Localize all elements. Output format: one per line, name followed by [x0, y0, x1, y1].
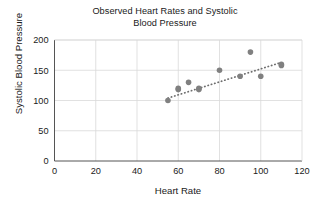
data-point [186, 80, 192, 86]
x-tick-label: 80 [214, 166, 224, 176]
y-tick-label: 200 [33, 35, 48, 45]
data-point [237, 74, 243, 80]
data-point [217, 67, 223, 73]
x-tick-label: 100 [253, 166, 268, 176]
data-point [279, 61, 285, 67]
trendline-path [168, 62, 281, 98]
x-tick-label: 20 [91, 166, 101, 176]
y-tick-label: 50 [38, 126, 48, 136]
y-tick-label: 150 [33, 66, 48, 76]
y-tick-label: 0 [43, 156, 48, 166]
gridlines [55, 40, 303, 161]
trendline [168, 62, 281, 98]
plot-svg: 050100150200 020406080100120 [0, 0, 322, 203]
data-point [258, 74, 264, 80]
x-tick-label: 0 [52, 166, 57, 176]
y-tick-label: 100 [33, 96, 48, 106]
y-tick-labels: 050100150200 [33, 35, 48, 166]
data-point [196, 86, 202, 92]
data-point [175, 86, 181, 92]
data-points [165, 49, 284, 103]
x-tick-label: 40 [132, 166, 142, 176]
x-tick-label: 60 [173, 166, 183, 176]
x-tick-labels: 020406080100120 [52, 166, 310, 176]
data-point [165, 98, 171, 104]
chart-container: Observed Heart Rates and Systolic Blood … [0, 0, 322, 203]
x-tick-label: 120 [294, 166, 309, 176]
data-point [248, 49, 254, 55]
x-axis-title: Heart Rate [54, 185, 302, 196]
